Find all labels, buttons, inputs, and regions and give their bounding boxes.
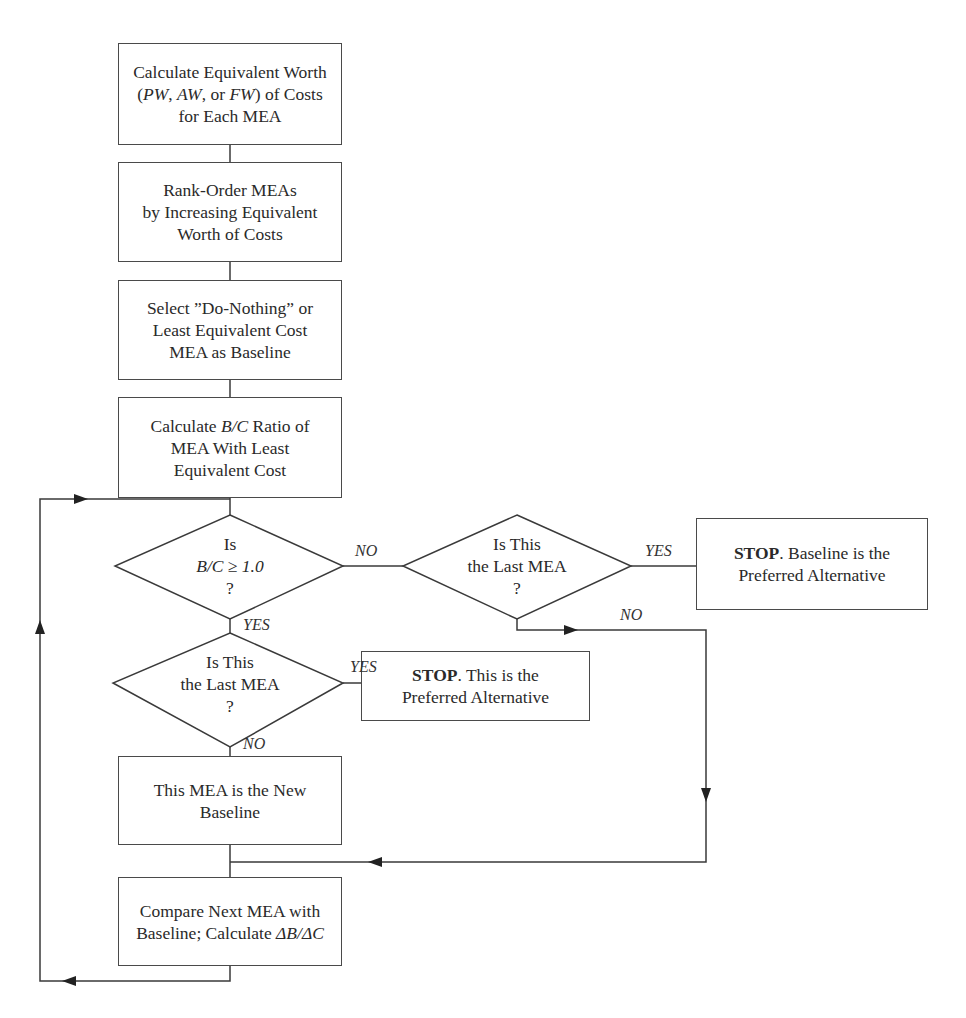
decision-last-mea-right: Is This the Last MEA ? bbox=[437, 533, 597, 599]
edge-label-last-left-no: NO bbox=[243, 735, 265, 753]
stop-baseline-line1: STOP. Baseline is the bbox=[734, 542, 890, 564]
edge-label-bc-no: NO bbox=[355, 542, 377, 560]
decision-last-mea-left: Is This the Last MEA ? bbox=[150, 651, 310, 717]
stop-this-line1: STOP. This is the bbox=[402, 664, 549, 686]
step2-line3: Worth of Costs bbox=[143, 223, 318, 245]
step3-line3: MEA as Baseline bbox=[147, 341, 313, 363]
new-baseline-line1: This MEA is the New bbox=[154, 779, 307, 801]
step4-line2: MEA With Least bbox=[151, 437, 310, 459]
step3-line1: Select ”Do-Nothing” or bbox=[147, 297, 313, 319]
step3-line2: Least Equivalent Cost bbox=[147, 319, 313, 341]
decision-right-line2: the Last MEA bbox=[437, 555, 597, 577]
step-select-baseline: Select ”Do-Nothing” or Least Equivalent … bbox=[118, 280, 342, 380]
step4-line3: Equivalent Cost bbox=[151, 459, 310, 481]
step-compare-next-mea: Compare Next MEA with Baseline; Calculat… bbox=[118, 877, 342, 966]
decision-right-line3: ? bbox=[437, 577, 597, 599]
step-rank-order-meas: Rank-Order MEAs by Increasing Equivalent… bbox=[118, 162, 342, 262]
compare-line2: Baseline; Calculate ΔB/ΔC bbox=[136, 922, 324, 944]
decision-bc-line3: ? bbox=[150, 577, 310, 599]
decision-right-line1: Is This bbox=[437, 533, 597, 555]
edge-label-last-left-yes: YES bbox=[350, 658, 377, 676]
step1-line2: (PW, AW, or FW) of Costs bbox=[133, 83, 327, 105]
compare-line1: Compare Next MEA with bbox=[136, 900, 324, 922]
decision-left-line2: the Last MEA bbox=[150, 673, 310, 695]
decision-bc-line1: Is bbox=[150, 533, 310, 555]
step-calculate-equivalent-worth: Calculate Equivalent Worth (PW, AW, or F… bbox=[118, 43, 342, 145]
step1-line3: for Each MEA bbox=[133, 105, 327, 127]
stop-baseline-line2: Preferred Alternative bbox=[734, 564, 890, 586]
step2-line1: Rank-Order MEAs bbox=[143, 179, 318, 201]
stop-this-line2: Preferred Alternative bbox=[402, 686, 549, 708]
new-baseline-line2: Baseline bbox=[154, 801, 307, 823]
edge-label-last-right-no: NO bbox=[620, 606, 642, 624]
decision-left-line1: Is This bbox=[150, 651, 310, 673]
decision-bc-line2: B/C ≥ 1.0 bbox=[150, 555, 310, 577]
step2-line2: by Increasing Equivalent bbox=[143, 201, 318, 223]
step1-line1: Calculate Equivalent Worth bbox=[133, 61, 327, 83]
edge-label-bc-yes: YES bbox=[243, 616, 270, 634]
step4-line1: Calculate B/C Ratio of bbox=[151, 415, 310, 437]
stop-this-preferred: STOP. This is the Preferred Alternative bbox=[361, 651, 590, 721]
step-calculate-bc-ratio: Calculate B/C Ratio of MEA With Least Eq… bbox=[118, 397, 342, 498]
connector-lines bbox=[0, 0, 966, 1018]
edge-label-last-right-yes: YES bbox=[645, 542, 672, 560]
decision-bc-ratio: Is B/C ≥ 1.0 ? bbox=[150, 533, 310, 599]
stop-baseline-preferred: STOP. Baseline is the Preferred Alternat… bbox=[696, 518, 928, 610]
decision-left-line3: ? bbox=[150, 695, 310, 717]
step-new-baseline: This MEA is the New Baseline bbox=[118, 756, 342, 845]
